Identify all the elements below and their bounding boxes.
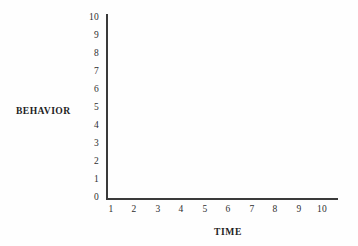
y-tick-label: 2 xyxy=(73,156,99,166)
y-tick-label: 0 xyxy=(73,192,99,202)
x-tick-label: 1 xyxy=(101,204,121,215)
x-tick-label: 6 xyxy=(218,204,238,215)
plot-area xyxy=(108,14,338,198)
x-tick-label: 7 xyxy=(242,204,262,215)
x-tick-label: 9 xyxy=(289,204,309,215)
y-tick-label: 7 xyxy=(73,66,99,76)
y-tick-label: 10 xyxy=(73,12,99,22)
x-tick-label: 3 xyxy=(148,204,168,215)
x-axis-line xyxy=(106,198,338,200)
y-tick-label: 6 xyxy=(73,84,99,94)
y-tick-label: 1 xyxy=(73,174,99,184)
x-tick-label: 5 xyxy=(195,204,215,215)
y-tick-label: 4 xyxy=(73,120,99,130)
y-tick-label: 8 xyxy=(73,48,99,58)
behavior-time-chart: 10 9 8 7 6 5 4 3 2 1 0 1 2 3 4 5 6 7 8 9… xyxy=(0,0,358,246)
x-tick-label: 4 xyxy=(171,204,191,215)
x-tick-label: 8 xyxy=(265,204,285,215)
x-tick-label: 10 xyxy=(312,204,332,215)
y-tick-label: 9 xyxy=(73,30,99,40)
y-tick-label: 3 xyxy=(73,138,99,148)
x-axis-title: TIME xyxy=(178,226,278,237)
x-tick-label: 2 xyxy=(124,204,144,215)
y-axis-title: BEHAVIOR xyxy=(16,105,88,116)
